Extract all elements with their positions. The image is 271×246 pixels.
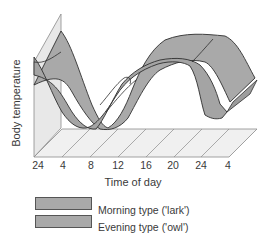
legend-label-morning: Morning type ('lark'): [98, 204, 190, 216]
x-axis-label: Time of day: [104, 176, 161, 188]
legend-swatch-evening: [35, 215, 92, 228]
x-tick-label: 24: [195, 159, 207, 171]
legend-label-evening: Evening type ('owl'): [98, 221, 188, 233]
floor-plane: [34, 129, 257, 157]
y-axis-label: Body temperature: [10, 59, 22, 146]
x-tick-label: 20: [167, 159, 179, 171]
x-tick-label: 4: [60, 159, 66, 171]
x-tick-label: 8: [88, 159, 94, 171]
x-tick-label: 4: [225, 159, 231, 171]
x-tick-label: 16: [140, 159, 152, 171]
x-tick-label: 24: [32, 159, 44, 171]
x-tick-label: 12: [112, 159, 124, 171]
legend-swatch-morning: [35, 197, 92, 210]
